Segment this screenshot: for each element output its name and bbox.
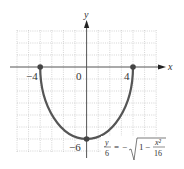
equation-label: y 6 = − 1 − x² 16: [101, 136, 167, 164]
point-4-0: [130, 64, 136, 70]
eq-minus: −: [145, 142, 150, 152]
tick-label-4: 4: [124, 70, 130, 82]
x-axis-label: x: [167, 61, 173, 72]
point-neg4-0: [37, 64, 43, 70]
eq-frac-den: 16: [154, 149, 162, 158]
tick-label-0: 0: [76, 70, 82, 82]
eq-lhs-den: 6: [105, 149, 109, 158]
eq-one: 1: [139, 142, 144, 152]
eq-equals: =: [114, 142, 119, 152]
tick-label-neg6: −6: [69, 141, 81, 153]
y-axis-arrow-icon: [84, 20, 89, 28]
y-axis-label: y: [83, 9, 89, 20]
x-axis-arrow-icon: [158, 65, 166, 70]
eq-lhs-num: y: [104, 138, 109, 147]
tick-label-neg4: −4: [26, 70, 38, 82]
point-0-neg6: [84, 136, 90, 142]
chart: x y −4 0 4 −6 y 6 = − 1 − x² 16: [0, 0, 184, 169]
eq-negative: −: [122, 142, 127, 152]
eq-frac-num: x²: [154, 138, 162, 147]
